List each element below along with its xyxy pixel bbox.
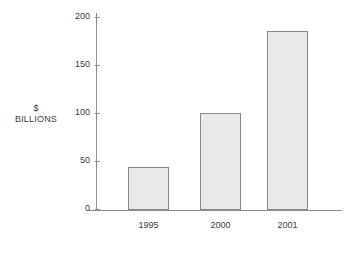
bar-1995 <box>128 167 169 210</box>
y-tick-label-150: 150 <box>75 59 90 70</box>
y-tick-200: 200 <box>96 17 101 18</box>
x-axis-label-2001: 2001 <box>267 220 308 231</box>
bar-chart: $ BILLIONS 0 50 100 150 200 <box>0 0 350 259</box>
y-tick-label-50: 50 <box>80 155 90 166</box>
bar-2000 <box>200 113 241 210</box>
y-axis-title: $ BILLIONS <box>0 103 72 125</box>
y-tick-mark-0 <box>95 209 100 210</box>
y-tick-100: 100 <box>96 113 101 114</box>
y-tick-0: 0 <box>96 209 101 210</box>
y-tick-mark-50 <box>95 161 100 162</box>
y-axis-title-line-1: $ <box>0 103 72 114</box>
y-tick-mark-100 <box>95 113 100 114</box>
y-tick-label-200: 200 <box>75 11 90 22</box>
y-tick-label-100: 100 <box>75 107 90 118</box>
y-axis-title-line-2: BILLIONS <box>0 114 72 125</box>
y-tick-mark-200 <box>95 17 100 18</box>
x-axis-line <box>87 210 342 211</box>
y-axis-line <box>96 13 97 211</box>
y-tick-50: 50 <box>96 161 101 162</box>
x-axis-label-2000: 2000 <box>200 220 241 231</box>
y-tick-150: 150 <box>96 65 101 66</box>
x-axis-label-1995: 1995 <box>128 220 169 231</box>
y-tick-mark-150 <box>95 65 100 66</box>
plot-area: 0 50 100 150 200 1995 2000 2001 <box>96 13 346 211</box>
bar-2001 <box>267 31 308 210</box>
y-tick-label-0: 0 <box>85 203 90 214</box>
